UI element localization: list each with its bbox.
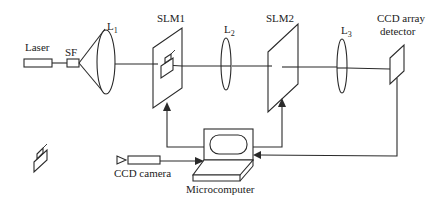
lens-l3: L3 (337, 24, 352, 93)
ccd-camera-label: CCD camera (114, 167, 171, 179)
ccd-array-label-line1: CCD array (377, 12, 425, 24)
lens-l3-label: L3 (341, 24, 352, 39)
slm2-label: SLM2 (266, 12, 294, 24)
input-object (34, 144, 47, 172)
ccd-array-detector: CCD array detector (377, 12, 425, 84)
ccd-camera: CCD camera (114, 156, 204, 179)
optical-correlator-diagram: Laser SF L1 SLM1 L2 (0, 0, 443, 203)
microcomputer-label: Microcomputer (186, 183, 255, 195)
lens-l1: L1 (97, 20, 118, 94)
laser-label: Laser (25, 41, 50, 53)
slm1-label: SLM1 (157, 12, 185, 24)
spatial-filter: SF (65, 46, 79, 67)
lens-l2-label: L2 (224, 23, 235, 38)
connection-computer-to-slm1 (163, 102, 204, 147)
ccd-array-label-line2: detector (380, 25, 416, 37)
slm2: SLM2 (266, 12, 298, 112)
laser: Laser (24, 41, 52, 67)
sf-label: SF (65, 46, 77, 58)
slm1: SLM1 (153, 12, 185, 108)
lens-l2: L2 (221, 23, 235, 90)
